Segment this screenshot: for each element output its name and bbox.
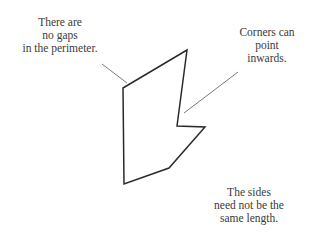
annotation-line: need not be the: [200, 199, 298, 212]
annotation-line: in the perimeter.: [10, 42, 110, 55]
annotation-line: no gaps: [10, 29, 110, 42]
annotation-sides-length: The sides need not be the same length.: [200, 186, 298, 225]
annotation-line: Corners can: [226, 26, 308, 39]
irregular-polygon: [123, 50, 205, 184]
annotation-no-gaps: There are no gaps in the perimeter.: [10, 16, 110, 55]
annotation-line: There are: [10, 16, 110, 29]
annotation-line: same length.: [200, 212, 298, 225]
leader-line-gaps: [102, 64, 127, 83]
annotation-line: inwards.: [226, 52, 308, 65]
annotation-line: The sides: [200, 186, 298, 199]
leader-line-corners: [184, 72, 238, 113]
annotation-line: point: [226, 39, 308, 52]
annotation-corners-inwards: Corners can point inwards.: [226, 26, 308, 65]
